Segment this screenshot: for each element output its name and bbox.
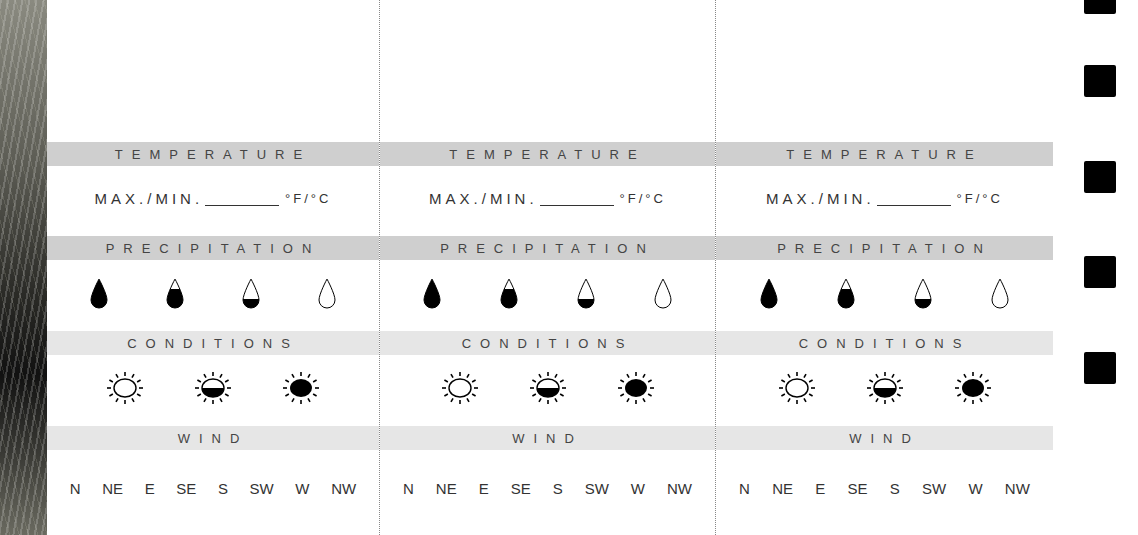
conditions-header: CONDITIONS [380,331,715,355]
temperature-blank-field[interactable] [540,191,614,206]
unit-label: °F/°C [957,191,1003,206]
wind-directions: NNEESESSWWNW [47,476,379,500]
sun-clear-icon[interactable] [777,368,817,412]
sun-half-icon[interactable] [528,368,568,412]
conditions-header: CONDITIONS [47,331,379,355]
maxmin-row: MAX./MIN. °F/°C [47,183,379,213]
wind-direction-e[interactable]: E [145,480,155,497]
side-marker [1084,65,1116,97]
temperature-blank-field[interactable] [877,191,951,206]
maxmin-row: MAX./MIN. °F/°C [716,183,1053,213]
wind-header: WIND [380,426,715,450]
wind-direction-sw[interactable]: SW [585,480,609,497]
wind-direction-n[interactable]: N [70,480,81,497]
wind-direction-nw[interactable]: NW [667,480,692,497]
sun-dark-icon[interactable] [616,368,656,412]
wind-direction-nw[interactable]: NW [331,480,356,497]
side-marker [1084,256,1116,288]
conditions-icons [380,368,715,412]
conditions-icons [716,368,1053,412]
precipitation-icons [716,275,1053,317]
side-marker [1084,352,1116,384]
sun-clear-icon[interactable] [440,368,480,412]
drop-full-icon[interactable] [422,278,442,314]
wind-direction-e[interactable]: E [479,480,489,497]
wind-direction-se[interactable]: SE [511,480,531,497]
wind-direction-s[interactable]: S [553,480,563,497]
wind-direction-w[interactable]: W [295,480,309,497]
drop-empty-icon[interactable] [990,278,1010,314]
wind-header: WIND [47,426,379,450]
weather-column: TEMPERATURE MAX./MIN. °F/°C PRECIPITATIO… [380,0,715,535]
drop-quarter-icon[interactable] [576,278,596,314]
temperature-blank-field[interactable] [205,191,279,206]
drop-full-icon[interactable] [89,278,109,314]
temperature-header: TEMPERATURE [716,142,1053,166]
maxmin-label: MAX./MIN. [429,190,538,207]
precipitation-icons [380,275,715,317]
wind-direction-ne[interactable]: NE [772,480,793,497]
maxmin-label: MAX./MIN. [766,190,875,207]
wind-direction-w[interactable]: W [631,480,645,497]
drop-three-quarter-icon[interactable] [499,278,519,314]
drop-empty-icon[interactable] [653,278,673,314]
wind-direction-ne[interactable]: NE [102,480,123,497]
wind-direction-s[interactable]: S [218,480,228,497]
dotted-divider [379,0,380,535]
drop-three-quarter-icon[interactable] [836,278,856,314]
maxmin-row: MAX./MIN. °F/°C [380,183,715,213]
temperature-header: TEMPERATURE [380,142,715,166]
temperature-header: TEMPERATURE [47,142,379,166]
maxmin-label: MAX./MIN. [95,190,204,207]
sun-half-icon[interactable] [193,368,233,412]
weather-column: TEMPERATURE MAX./MIN. °F/°C PRECIPITATIO… [716,0,1053,535]
drop-empty-icon[interactable] [317,278,337,314]
wind-direction-se[interactable]: SE [848,480,868,497]
unit-label: °F/°C [620,191,666,206]
wheat-photo-strip [0,0,47,535]
wind-direction-s[interactable]: S [890,480,900,497]
side-marker [1084,0,1116,14]
precipitation-header: PRECIPITATION [47,236,379,260]
side-marker [1084,161,1116,193]
wind-header: WIND [716,426,1053,450]
weather-column: TEMPERATURE MAX./MIN. °F/°C PRECIPITATIO… [47,0,379,535]
drop-quarter-icon[interactable] [913,278,933,314]
conditions-header: CONDITIONS [716,331,1053,355]
precipitation-icons [47,275,379,317]
conditions-icons [47,368,379,412]
wind-directions: NNEESESSWWNW [380,476,715,500]
unit-label: °F/°C [285,191,331,206]
wind-direction-n[interactable]: N [739,480,750,497]
sun-dark-icon[interactable] [953,368,993,412]
precipitation-header: PRECIPITATION [716,236,1053,260]
wind-direction-sw[interactable]: SW [250,480,274,497]
wind-directions: NNEESESSWWNW [716,476,1053,500]
drop-full-icon[interactable] [759,278,779,314]
wind-direction-sw[interactable]: SW [922,480,946,497]
wind-direction-e[interactable]: E [815,480,825,497]
sun-half-icon[interactable] [865,368,905,412]
sun-clear-icon[interactable] [105,368,145,412]
drop-quarter-icon[interactable] [241,278,261,314]
wind-direction-w[interactable]: W [968,480,982,497]
precipitation-header: PRECIPITATION [380,236,715,260]
wind-direction-n[interactable]: N [403,480,414,497]
wind-direction-nw[interactable]: NW [1005,480,1030,497]
drop-three-quarter-icon[interactable] [165,278,185,314]
dotted-divider [715,0,716,535]
wind-direction-se[interactable]: SE [176,480,196,497]
wind-direction-ne[interactable]: NE [436,480,457,497]
sun-dark-icon[interactable] [281,368,321,412]
